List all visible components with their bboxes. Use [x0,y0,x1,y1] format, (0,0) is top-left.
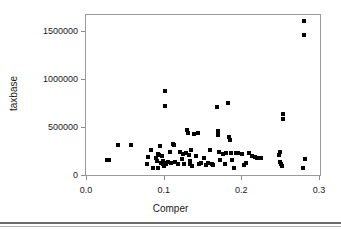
data-point [302,19,306,23]
y-axis-title: taxbase [8,59,19,129]
data-point [196,131,200,135]
x-axis-tick [319,176,320,180]
y-axis-tick-label: 500000 [12,123,78,132]
data-point [189,148,193,152]
x-axis-tick-label: 0.1 [144,186,184,195]
data-point [218,158,222,162]
y-axis-tick [81,127,85,128]
scatter-plot-figure: 0500000100000015000000.00.10.20.3 taxbas… [0,0,341,229]
data-point [302,33,306,37]
data-point [172,143,176,147]
data-point [190,164,194,168]
data-point [224,151,228,155]
data-point [228,138,232,142]
data-point [208,148,212,152]
y-axis-tick-label: 0 [12,171,78,180]
data-point [107,158,111,162]
data-point [182,162,186,166]
data-point [163,89,167,93]
x-axis-tick-label: 0.3 [299,186,339,195]
data-point [145,162,149,166]
data-point [176,162,180,166]
x-axis-tick [241,176,242,180]
x-axis-title: Comper [0,203,341,214]
x-axis-tick-label: 0.2 [221,186,261,195]
data-point [281,112,285,116]
data-point [202,156,206,160]
data-point [186,131,190,135]
data-point [116,143,120,147]
data-point [280,164,284,168]
data-point [149,148,153,152]
data-point [158,144,162,148]
data-point [301,166,305,170]
y-axis-tick-label: 1000000 [12,75,78,84]
y-axis-tick [81,175,85,176]
data-point [232,166,236,170]
data-point [163,104,167,108]
data-point [216,133,220,137]
data-point [281,117,285,121]
data-point [129,143,133,147]
data-point [278,150,282,154]
y-axis-tick [81,79,85,80]
data-point [223,162,227,166]
data-point [156,166,160,170]
data-point [226,101,230,105]
data-point [168,150,172,154]
data-point [303,157,307,161]
data-point [230,158,234,162]
data-point [240,152,244,156]
x-axis-tick-label: 0.0 [66,186,106,195]
data-point [187,153,191,157]
data-point [244,161,248,165]
data-point [146,155,150,159]
data-point [180,157,184,161]
data-point [160,154,164,158]
footer-rule [0,222,341,224]
x-axis-tick [86,176,87,180]
data-point [259,156,263,160]
data-point [194,154,198,158]
data-point [215,105,219,109]
y-axis-tick-label: 1500000 [12,27,78,36]
data-point [151,166,155,170]
x-axis-tick [164,176,165,180]
data-point [229,151,233,155]
data-point [199,161,203,165]
data-point [211,163,215,167]
footer-rule-thin [0,226,341,227]
y-axis-tick [81,31,85,32]
